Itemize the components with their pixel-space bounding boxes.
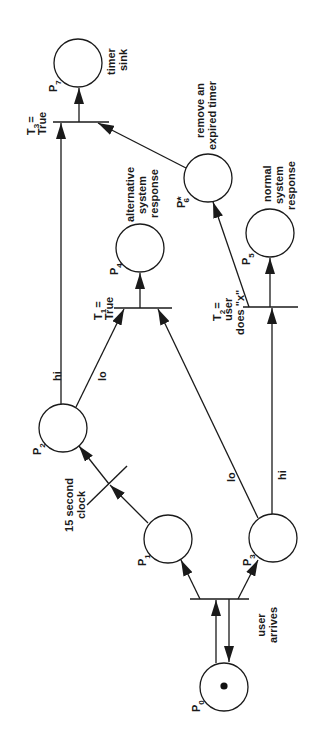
arc-p3-to-t1	[158, 309, 258, 518]
place-p6	[184, 154, 232, 202]
petri-net-diagram: P0 user arrives P1 P3 15 second clock P2…	[0, 0, 320, 744]
token-icon	[220, 682, 227, 689]
arcs	[61, 88, 272, 663]
place-p5	[246, 209, 294, 257]
p4-description-2: system	[136, 176, 148, 214]
labels: P0 user arrives P1 P3 15 second clock P2…	[25, 47, 297, 712]
p4-description-3: response	[148, 169, 160, 218]
p1-label: P1	[136, 554, 152, 566]
arc-clock-to-p2	[79, 446, 109, 484]
p6-description-2: expired timer	[206, 80, 218, 150]
p4-description: alternative	[124, 167, 136, 222]
transition-15-second-clock	[87, 466, 127, 505]
p5-label: P5	[240, 253, 256, 265]
arc-user-arrives-to-p1	[181, 560, 200, 599]
places	[39, 39, 297, 711]
p5-description: normal	[261, 165, 273, 202]
user-arrives-label: user	[255, 613, 267, 637]
arc-label-lo-p2: lo	[96, 371, 108, 381]
p5-description-3: response	[285, 161, 297, 210]
t2-label-does-x: does "x"	[234, 290, 246, 335]
user-arrives-label-2: arrives	[267, 607, 279, 643]
p7-description-2: sink	[117, 48, 129, 71]
p5-description-2: system	[273, 166, 285, 204]
arc-label-hi-p2: hi	[51, 371, 63, 381]
arc-label-lo-p3: lo	[225, 472, 237, 482]
clock-label: 15 second	[63, 478, 75, 532]
arc-label-hi-p3: hi	[276, 470, 288, 480]
p2-label: P2	[31, 443, 47, 455]
t1-label-true: True	[103, 297, 115, 320]
arc-p6-to-t3	[98, 123, 186, 168]
p7-label: P7	[47, 80, 63, 92]
p7-description: timer	[105, 47, 117, 75]
clock-label-2: clock	[75, 490, 87, 519]
p4-label: P4	[108, 263, 124, 275]
p6-description: remove an	[194, 83, 206, 138]
p6-label: P*6	[175, 196, 191, 208]
p0-label: P0	[190, 700, 206, 712]
t3-label-true: True	[36, 112, 48, 135]
arc-p2-to-t1	[76, 309, 124, 407]
p3-label: P3	[241, 554, 257, 566]
t2-label-user: user	[222, 297, 234, 321]
place-p7	[54, 39, 102, 87]
arc-p1-to-clock	[110, 485, 148, 523]
